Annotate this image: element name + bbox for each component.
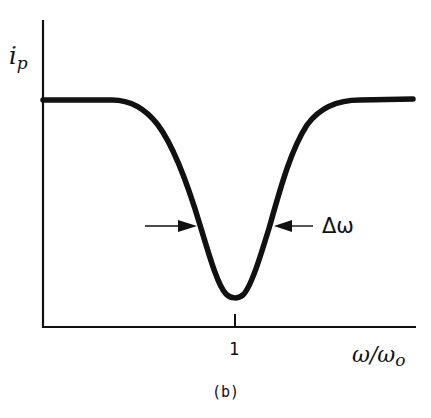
panel-label: (b) bbox=[212, 383, 239, 401]
resonance-curve bbox=[43, 99, 413, 298]
delta-omega-label: Δω bbox=[322, 214, 354, 238]
y-axis-label: ip bbox=[9, 42, 28, 70]
x-tick-label-1: 1 bbox=[229, 339, 239, 359]
arrowhead-left-icon bbox=[178, 220, 197, 232]
arrowhead-right-icon bbox=[274, 220, 292, 232]
x-axis-label: ω/ωo bbox=[352, 342, 406, 367]
